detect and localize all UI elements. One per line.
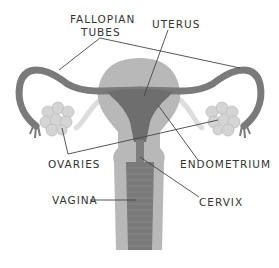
label-fallopian-tubes-line1: FALLOPIAN (70, 13, 135, 25)
vagina-shape (126, 162, 154, 250)
label-cervix: CERVIX (199, 196, 243, 208)
label-fallopian-tubes-line2: TUBES (81, 26, 121, 38)
label-uterus: UTERUS (152, 18, 200, 30)
left-ovary (40, 102, 74, 136)
label-vagina: VAGINA (52, 194, 98, 206)
label-endometrium: ENDOMETRIUM (180, 158, 271, 170)
right-ligament (180, 100, 202, 128)
right-ovary (206, 102, 240, 136)
reproductive-anatomy-diagram (0, 0, 279, 268)
label-ovaries: OVARIES (48, 158, 100, 170)
left-ligament (76, 100, 100, 128)
